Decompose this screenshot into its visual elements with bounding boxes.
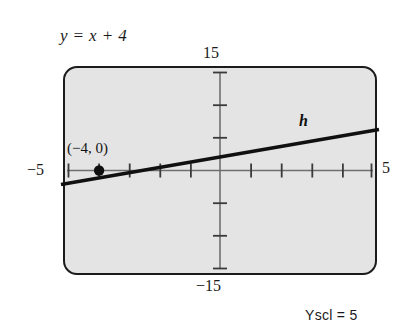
yscl-footnote: Yscl = 5 (305, 307, 358, 323)
equation-caption: y = x + 4 (60, 26, 127, 46)
intercept-point-marker (94, 165, 104, 175)
plot-canvas (63, 66, 377, 275)
ymin-label: −15 (196, 277, 221, 295)
curve-name-label: h (299, 112, 308, 130)
ymax-label: 15 (203, 44, 219, 62)
graph-figure: y = x + 4 (0, 0, 413, 336)
intercept-point-label: (−4, 0) (67, 140, 108, 157)
xmax-label: 5 (382, 159, 390, 177)
xmin-label: −5 (27, 161, 44, 179)
